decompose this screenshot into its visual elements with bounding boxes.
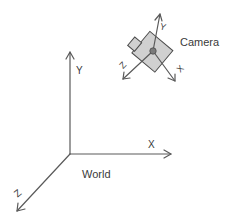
- world-x-label: X: [148, 139, 155, 150]
- world-axes: Y X Z World: [12, 52, 171, 211]
- camera-z-label: Z: [117, 59, 128, 70]
- camera-center-icon: [150, 48, 156, 54]
- camera-body: [126, 26, 173, 72]
- world-y-label: Y: [76, 65, 83, 76]
- camera-x-label: X: [175, 63, 186, 74]
- coordinate-systems-diagram: Y X Z World Y X Z Camera: [0, 0, 231, 222]
- camera-x-arrowhead: [168, 74, 175, 81]
- world-z-axis: [17, 154, 70, 211]
- camera-y-label: Y: [159, 21, 167, 32]
- world-label: World: [82, 168, 111, 180]
- camera: Y X Z Camera: [117, 14, 220, 81]
- camera-label: Camera: [180, 36, 220, 48]
- world-z-label: Z: [12, 187, 24, 199]
